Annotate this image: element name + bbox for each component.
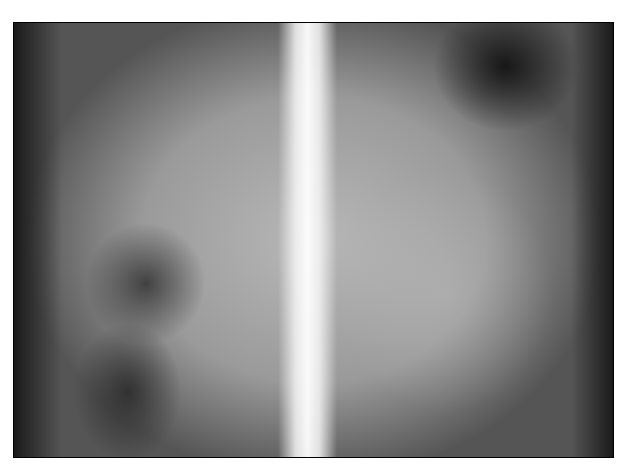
xray-right-edge bbox=[14, 23, 613, 457]
xray-image bbox=[13, 22, 614, 458]
